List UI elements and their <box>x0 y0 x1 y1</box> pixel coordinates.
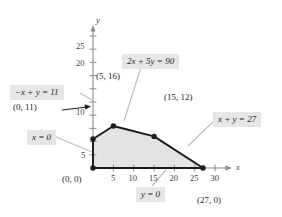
vertex-15-12 <box>151 134 156 139</box>
leader-2x5y <box>124 67 141 121</box>
callout-negx-y-11: −x + y = 11 <box>10 85 64 100</box>
y-tick-label-10: 10 <box>76 108 85 117</box>
y-tick-label-5: 5 <box>81 151 85 160</box>
vertex-5-16 <box>111 123 116 128</box>
y-axis-label: y <box>96 16 100 25</box>
vertex-label-origin: (0, 0) <box>62 175 82 184</box>
callout-x-y-27: x + y = 27 <box>213 112 261 127</box>
feasible-region-shape <box>93 126 203 168</box>
vertex-27-0 <box>200 165 205 170</box>
callout-x-0: x = 0 <box>27 130 56 145</box>
x-tick-label-20: 20 <box>170 174 179 183</box>
x-tick-label-5: 5 <box>111 174 115 183</box>
vertex-origin <box>90 165 95 170</box>
x-tick-label-10: 10 <box>129 174 138 183</box>
leader-negx-y <box>80 93 92 100</box>
x-tick-label-25: 25 <box>190 174 199 183</box>
y-tick-label-25: 25 <box>76 42 85 51</box>
x-tick-label-30: 30 <box>211 174 220 183</box>
leader-x-y-27 <box>188 119 216 146</box>
leader-x-0 <box>56 137 92 152</box>
figure-canvas: y x 5 10 15 20 25 30 5 10 20 25 (0, 0) (… <box>0 0 282 217</box>
y-tick-label-20: 20 <box>76 59 85 68</box>
vertex-0-11 <box>90 136 95 141</box>
callout-2x-5y-90: 2x + 5y = 90 <box>122 54 179 69</box>
vertex-label-15-12: (15, 12) <box>164 93 193 102</box>
callout-y-0: y = 0 <box>136 187 165 202</box>
vertex-label-5-16: (5, 16) <box>96 72 120 81</box>
x-axis-label: x <box>236 163 240 172</box>
vertex-label-0-11: (0, 11) <box>13 103 37 112</box>
vertex-label-27-0: (27, 0) <box>197 196 221 205</box>
x-tick-label-15: 15 <box>149 174 158 183</box>
x-axis-arrow-icon <box>226 165 233 170</box>
graph-svg <box>0 0 282 217</box>
y-axis-arrow-icon <box>90 25 95 32</box>
